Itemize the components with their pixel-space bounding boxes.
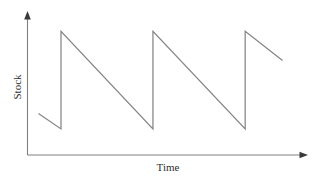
chart-screenshot: Stock Time <box>0 0 320 180</box>
chart-background <box>0 0 320 180</box>
x-axis-title: Time <box>157 161 180 173</box>
sawtooth-stock-chart: Stock Time <box>0 0 320 180</box>
y-axis-title: Stock <box>11 74 23 100</box>
